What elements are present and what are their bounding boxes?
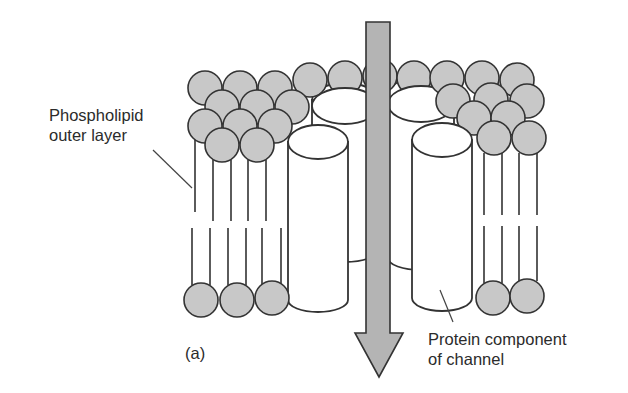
panel-label: (a) — [185, 343, 205, 363]
phospholipid-leader-line — [153, 150, 192, 188]
phospholipid-label: Phospholipid outer layer — [49, 105, 144, 145]
phospholipid-heads-bottom — [184, 279, 544, 317]
phospholipid-label-line1: Phospholipid — [49, 105, 144, 125]
phospholipid-tails-right — [484, 153, 537, 283]
protein-cylinder-front-right — [412, 123, 472, 311]
phospholipid-label-line2: outer layer — [49, 125, 144, 145]
protein-cylinder-front-left — [288, 125, 348, 312]
protein-label-line1: Protein component — [428, 329, 567, 349]
membrane-channel-diagram: .head { fill: #c8c8c8; stroke: #333; str… — [0, 0, 628, 393]
phospholipid-tails-left-lower — [192, 228, 281, 285]
protein-label-line2: of channel — [428, 349, 567, 369]
protein-label: Protein component of channel — [428, 329, 567, 369]
